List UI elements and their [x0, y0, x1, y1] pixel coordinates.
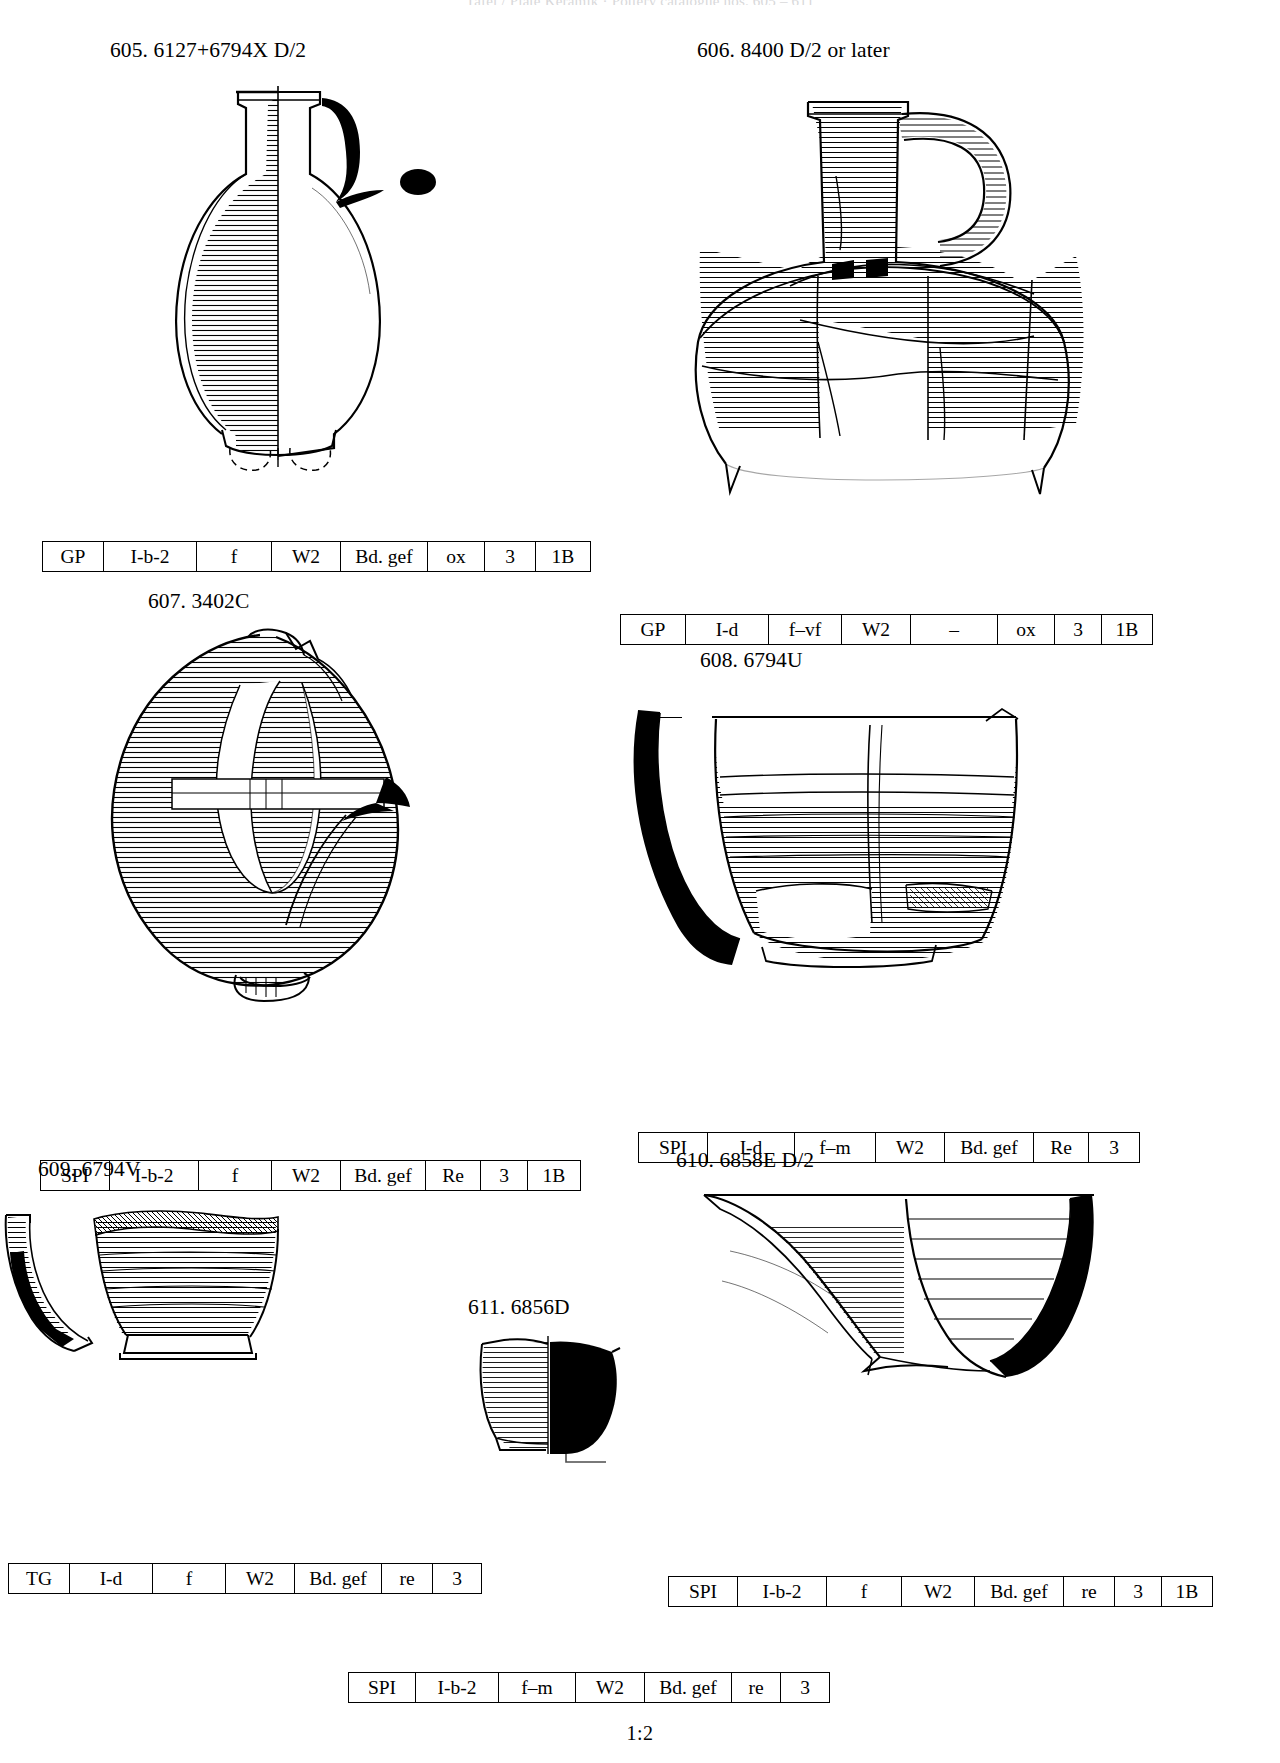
cell-temper: f–vf [769, 615, 842, 645]
caption-611: 611. 6856D [468, 1295, 570, 1320]
cell-hardness: 3 [1115, 1577, 1162, 1607]
cell-firing: re [1064, 1577, 1115, 1607]
cell-firing: re [382, 1564, 433, 1594]
attributes-table-610: SPI I-b-2 f W2 Bd. gef re 3 1B [668, 1576, 1213, 1607]
cell-firing: ox [998, 615, 1055, 645]
cell-hardness: 3 [1089, 1133, 1140, 1163]
cell-group: 1B [1102, 615, 1153, 645]
cell-hardness: 3 [781, 1673, 830, 1703]
cell-temper: f [153, 1564, 226, 1594]
cell-surface: W2 [842, 615, 911, 645]
cell-temper: f [827, 1577, 902, 1607]
attributes-table-605: GP I-b-2 f W2 Bd. gef ox 3 1B [42, 541, 591, 572]
attributes-table-606: GP I-d f–vf W2 – ox 3 1B [620, 614, 1153, 645]
figure-609 [0, 1195, 400, 1365]
table-row: GP I-d f–vf W2 – ox 3 1B [621, 615, 1153, 645]
cell-hardness: 3 [481, 1161, 528, 1191]
caption-606: 606. 8400 D/2 or later [697, 38, 890, 63]
cell-surface: W2 [576, 1673, 645, 1703]
scale-note: 1:2 [0, 1722, 1280, 1745]
figure-605 [150, 78, 510, 488]
cell-group: 1B [528, 1161, 581, 1191]
cell-hardness: 3 [1055, 615, 1102, 645]
table-row: TG I-d f W2 Bd. gef re 3 [9, 1564, 482, 1594]
caption-609: 609. 6794V [38, 1157, 141, 1182]
caption-605: 605. 6127+6794X D/2 [110, 38, 306, 63]
cell-surface: W2 [272, 1161, 341, 1191]
cell-firing: Re [426, 1161, 481, 1191]
cell-rim: Bd. gef [341, 1161, 426, 1191]
cell-fabric: I-d [70, 1564, 153, 1594]
cell-surface: W2 [876, 1133, 945, 1163]
cell-surface: W2 [226, 1564, 295, 1594]
cell-fabric: I-b-2 [738, 1577, 827, 1607]
cell-hardness: 3 [433, 1564, 482, 1594]
table-row: SPI I-b-2 f W2 Bd. gef re 3 1B [669, 1577, 1213, 1607]
cell-firing: re [732, 1673, 781, 1703]
cell-ware: SPI [349, 1673, 416, 1703]
cell-rim: Bd. gef [645, 1673, 732, 1703]
cell-firing: Re [1034, 1133, 1089, 1163]
attributes-table-611: SPI I-b-2 f–m W2 Bd. gef re 3 [348, 1672, 830, 1703]
cell-rim: Bd. gef [975, 1577, 1064, 1607]
cell-firing: ox [428, 542, 485, 572]
table-row: GP I-b-2 f W2 Bd. gef ox 3 1B [43, 542, 591, 572]
caption-607: 607. 3402C [148, 589, 249, 614]
figure-610 [690, 1185, 1110, 1385]
cell-fabric: I-b-2 [416, 1673, 499, 1703]
cell-ware: GP [621, 615, 686, 645]
cell-rim: Bd. gef [945, 1133, 1034, 1163]
cell-hardness: 3 [485, 542, 536, 572]
figure-608 [620, 695, 1050, 995]
running-head: Tafel / Plate Keramik · Pottery catalogu… [0, 0, 1280, 5]
cell-fabric: I-d [686, 615, 769, 645]
table-row: SPI I-b-2 f–m W2 Bd. gef re 3 [349, 1673, 830, 1703]
cell-temper: f [197, 542, 272, 572]
figure-606 [640, 80, 1110, 520]
caption-608: 608. 6794U [700, 648, 803, 673]
cell-surface: W2 [902, 1577, 975, 1607]
caption-610: 610. 6858E D/2 [676, 1148, 814, 1173]
cell-rim: Bd. gef [341, 542, 428, 572]
figure-611 [470, 1330, 650, 1470]
figure-607 [90, 625, 470, 1025]
cell-fabric: I-b-2 [104, 542, 197, 572]
attributes-table-609: TG I-d f W2 Bd. gef re 3 [8, 1563, 482, 1594]
cell-temper: f–m [499, 1673, 576, 1703]
cell-ware: TG [9, 1564, 70, 1594]
cell-surface: W2 [272, 542, 341, 572]
cell-rim: Bd. gef [295, 1564, 382, 1594]
cell-temper: f [199, 1161, 272, 1191]
cell-rim: – [911, 615, 998, 645]
cell-ware: SPI [669, 1577, 738, 1607]
cell-ware: GP [43, 542, 104, 572]
cell-group: 1B [536, 542, 591, 572]
cell-group: 1B [1162, 1577, 1213, 1607]
